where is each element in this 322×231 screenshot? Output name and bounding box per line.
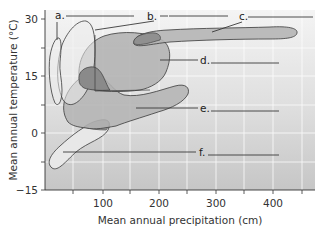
y-ticks (41, 19, 45, 190)
label-b: b. (147, 10, 157, 22)
label-d: d. (200, 54, 210, 66)
y-tick-label-neg15: −15 (16, 184, 38, 196)
biome-climate-diagram: a. b. c. d. e. f. 30 15 0 −15 100 200 30… (0, 0, 322, 231)
y-tick-label-0: 0 (31, 127, 38, 139)
y-tick-label-15: 15 (25, 70, 38, 82)
label-c: c. (239, 10, 248, 22)
x-tick-label-100: 100 (93, 197, 113, 209)
x-ticks (73, 190, 302, 194)
y-axis-title: Mean annual temperature (°C) (7, 19, 19, 180)
y-tick-label-30: 30 (25, 13, 38, 25)
x-axis-title: Mean annual precipitation (cm) (98, 214, 263, 226)
x-tick-label-200: 200 (149, 197, 169, 209)
label-f: f. (199, 146, 205, 158)
x-tick-label-300: 300 (206, 197, 226, 209)
label-e: e. (200, 102, 210, 114)
x-tick-label-400: 400 (263, 197, 283, 209)
label-a: a. (55, 9, 65, 21)
